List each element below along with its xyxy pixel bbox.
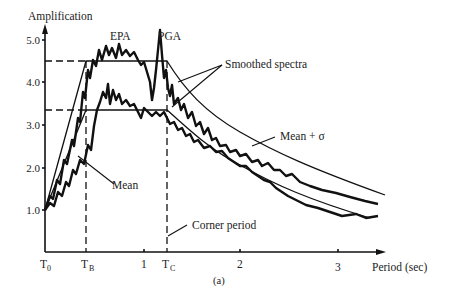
y-tick-3: 3.0 (26, 119, 40, 131)
y-tick-4: 4.0 (26, 76, 40, 88)
mean-spectrum-line (45, 84, 378, 218)
figure-caption: (a) (213, 275, 225, 287)
x-axis-arrow-icon (376, 249, 386, 255)
smoothed-mean-sigma-line (45, 61, 385, 210)
epa-label: EPA (110, 30, 131, 42)
x-axis-label: Period (sec) (372, 261, 427, 274)
y-axis-label: Amplification (28, 10, 93, 23)
y-tick-labels: 5.0 4.0 3.0 2.0 1.0 (26, 34, 40, 216)
x-tick-t0: T0 (40, 258, 51, 273)
x-tick-tb: TB (81, 258, 94, 273)
mean-leader (78, 156, 114, 184)
x-tick-labels: T0 TB 1 TC 2 3 Period (sec) (a) (40, 258, 427, 287)
mean-sigma-label: Mean + σ (280, 130, 325, 142)
response-spectrum-chart: 5.0 4.0 3.0 2.0 1.0 Amplification T0 TB … (0, 0, 449, 302)
y-axis-arrow-icon (42, 24, 48, 34)
x-tick-tc: TC (162, 258, 175, 273)
pga-label: PGA (158, 30, 182, 42)
actual-spectra (45, 30, 378, 218)
smoothed-leader-1 (178, 65, 222, 82)
x-tick-1: 1 (141, 258, 147, 270)
corner-leader (168, 225, 187, 236)
smoothed-spectra-label: Smoothed spectra (225, 58, 307, 71)
y-tick-1: 1.0 (26, 204, 40, 216)
annotations: EPA PGA Smoothed spectra Mean + σ Mean C… (110, 30, 325, 232)
mean-label: Mean (112, 179, 138, 191)
y-tick-2: 2.0 (26, 162, 40, 174)
x-tick-3: 3 (335, 261, 341, 273)
smoothed-leader-2 (172, 65, 222, 107)
x-tick-2: 2 (237, 258, 243, 270)
corner-period-label: Corner period (192, 219, 256, 232)
y-tick-5: 5.0 (26, 34, 40, 46)
